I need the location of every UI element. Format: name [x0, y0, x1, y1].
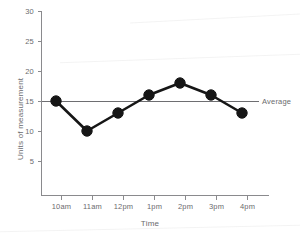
x-axis-title: Time	[0, 219, 300, 228]
y-tick-label-25: 25	[12, 37, 34, 46]
data-point-10am	[51, 96, 61, 106]
data-point-12pm	[113, 108, 123, 118]
x-tick-label-4pm: 4pm	[227, 202, 268, 211]
data-point-4pm	[237, 108, 247, 118]
data-point-3pm	[206, 90, 216, 100]
series-markers	[51, 78, 247, 136]
data-point-1pm	[144, 90, 154, 100]
average-line-label: Average	[262, 97, 291, 106]
y-tick-label-30: 30	[12, 7, 34, 16]
line-chart: 30 25 20 15 10 5 10am 11am 12pm 1pm 2pm …	[0, 0, 300, 236]
x-tick-marks	[62, 196, 248, 200]
chart-canvas	[0, 0, 300, 236]
y-axis-title: Units of measurement	[16, 78, 25, 160]
data-point-11am	[82, 126, 92, 136]
y-tick-label-20: 20	[12, 67, 34, 76]
y-tick-marks	[38, 12, 42, 162]
data-point-2pm	[175, 78, 185, 88]
